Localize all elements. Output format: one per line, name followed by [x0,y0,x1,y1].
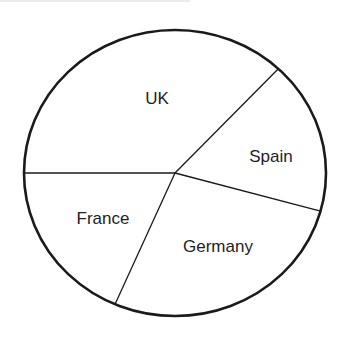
slice-label-france: France [77,209,130,228]
slice-label-germany: Germany [183,237,253,256]
slice-label-spain: Spain [249,147,292,166]
pie-chart: UK France Germany Spain [0,0,344,337]
slice-label-uk: UK [145,89,169,108]
